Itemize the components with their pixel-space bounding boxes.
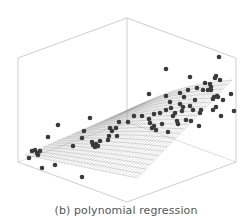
data-point <box>106 138 111 143</box>
data-point <box>152 124 157 129</box>
data-point <box>203 81 208 86</box>
data-point <box>132 114 137 119</box>
data-point <box>182 95 187 100</box>
mesh-line <box>123 82 219 176</box>
data-point <box>191 108 196 113</box>
data-point <box>195 86 200 91</box>
data-point <box>53 163 58 168</box>
data-point <box>188 104 193 109</box>
data-point <box>193 98 198 103</box>
data-point <box>209 85 214 90</box>
data-point <box>199 108 204 113</box>
data-point <box>214 105 219 110</box>
mesh-line <box>53 143 163 152</box>
data-point <box>36 153 41 158</box>
data-point <box>180 109 185 114</box>
data-point <box>148 121 153 126</box>
figure-caption: (b) polynomial regression <box>0 204 252 217</box>
data-point <box>173 111 178 116</box>
data-point <box>82 129 87 134</box>
data-point <box>229 92 234 97</box>
data-point <box>107 134 112 139</box>
data-point <box>80 175 85 180</box>
data-point <box>110 129 115 134</box>
data-point <box>56 123 61 128</box>
box-edge <box>18 162 127 202</box>
data-point <box>164 67 169 72</box>
data-point <box>211 97 216 102</box>
data-point <box>160 122 165 127</box>
data-point <box>147 92 152 97</box>
data-point <box>164 94 169 99</box>
data-point <box>80 136 85 141</box>
data-point <box>219 114 224 119</box>
data-point <box>40 166 45 171</box>
data-point <box>115 134 120 139</box>
data-point <box>201 88 206 93</box>
data-point <box>168 100 173 105</box>
scatter-3d-plot <box>0 0 252 205</box>
data-point <box>46 135 51 140</box>
data-point <box>218 78 223 83</box>
data-point <box>216 95 221 100</box>
data-point <box>98 139 103 144</box>
data-point <box>152 112 157 117</box>
mesh-line <box>89 87 187 168</box>
data-point <box>147 117 152 122</box>
box-edge <box>18 18 127 58</box>
data-point <box>178 91 183 96</box>
data-point <box>71 144 76 149</box>
data-point <box>126 120 131 125</box>
data-point <box>221 98 226 103</box>
data-point <box>197 124 202 129</box>
data-point <box>184 118 189 123</box>
data-point <box>166 130 171 135</box>
data-point <box>140 114 145 119</box>
data-point <box>181 105 186 110</box>
data-point <box>232 109 237 114</box>
data-point <box>214 74 219 79</box>
data-point <box>189 119 194 124</box>
data-point <box>217 55 222 60</box>
data-point <box>114 126 119 131</box>
data-point <box>186 88 191 93</box>
data-point <box>27 156 32 161</box>
data-point <box>96 144 101 149</box>
data-point <box>169 106 174 111</box>
data-point <box>88 116 93 121</box>
data-point <box>117 120 122 125</box>
data-point <box>164 108 169 113</box>
mesh-line <box>63 138 172 142</box>
data-point <box>154 128 159 133</box>
data-point <box>38 149 43 154</box>
data-point <box>176 122 181 127</box>
box-edge <box>127 18 236 58</box>
data-point <box>188 75 193 80</box>
mesh-line <box>120 82 216 175</box>
data-point <box>158 111 163 116</box>
